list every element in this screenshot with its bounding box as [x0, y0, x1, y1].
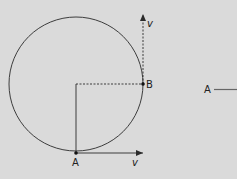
- point-B-dot: [141, 82, 145, 86]
- velocity-label-A: v: [132, 157, 139, 168]
- point-A-dot: [74, 151, 78, 155]
- point-B-label: B: [146, 79, 153, 90]
- side-A-label: A: [204, 84, 211, 95]
- diagram-canvas: A B v v A: [0, 0, 237, 179]
- point-A-label: A: [72, 157, 79, 168]
- velocity-label-B: v: [147, 18, 154, 29]
- circular-motion-diagram: A B v v A: [0, 0, 237, 179]
